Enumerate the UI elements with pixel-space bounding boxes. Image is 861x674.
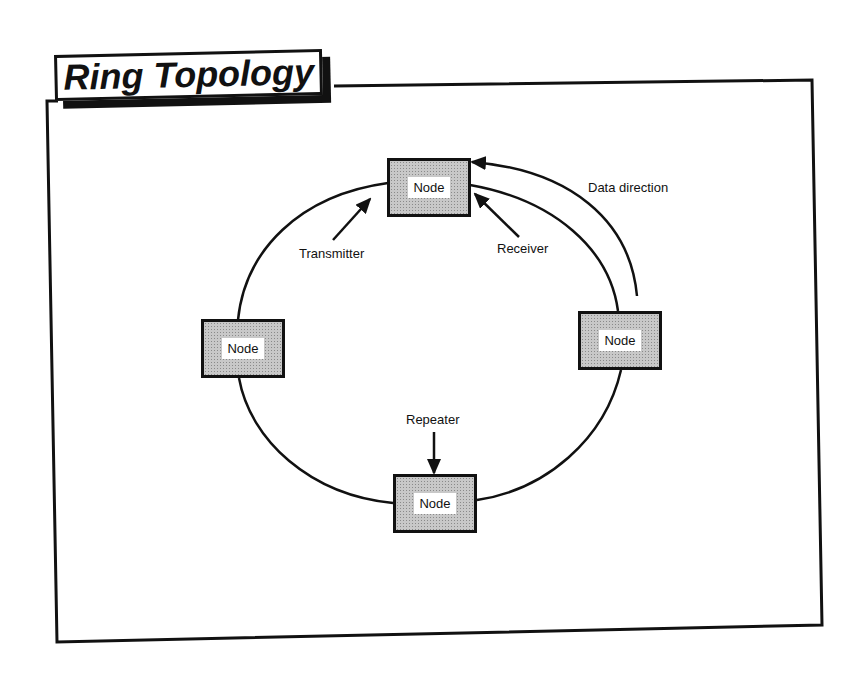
ring-topology-diagram: Ring Topology Node Node Node Node Transm…	[0, 0, 861, 674]
transmitter-label: Transmitter	[299, 246, 364, 261]
node-top: Node	[387, 158, 471, 217]
diagram-title: Ring Topology	[63, 54, 314, 96]
node-left: Node	[201, 319, 285, 378]
node-right: Node	[578, 311, 662, 370]
node-label: Node	[408, 177, 449, 198]
ring-segment-right-bottom	[477, 370, 621, 500]
node-label: Node	[599, 330, 640, 351]
ring-segment-left-bottom	[239, 378, 393, 503]
node-label: Node	[222, 338, 263, 359]
node-label: Node	[414, 493, 455, 514]
receiver-label: Receiver	[497, 241, 548, 256]
diagram-lines	[0, 0, 861, 674]
receiver-arrow	[475, 194, 519, 237]
node-bottom: Node	[393, 474, 477, 533]
title-box: Ring Topology	[54, 49, 323, 101]
transmitter-arrow	[333, 199, 370, 240]
repeater-label: Repeater	[406, 412, 459, 427]
data-direction-label: Data direction	[588, 180, 668, 195]
